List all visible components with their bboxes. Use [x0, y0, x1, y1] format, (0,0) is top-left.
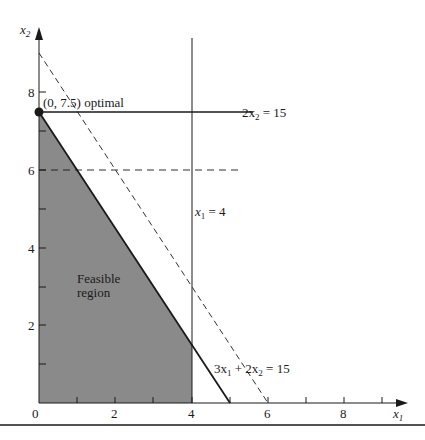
- feasible-region: [39, 112, 192, 403]
- optimal-point-label: (0, 7.5) optimal: [43, 95, 124, 110]
- svg-text:4: 4: [28, 241, 35, 256]
- feasible-region-label: Feasible: [77, 271, 121, 286]
- svg-text:6: 6: [264, 406, 271, 421]
- lp-graph: 0 2 4 6 8 2 4 6 8 x2 x1 (0, 7.5) optimal…: [0, 0, 425, 440]
- svg-text:0: 0: [32, 406, 39, 421]
- svg-text:6: 6: [28, 163, 35, 178]
- label-3x1-2x2-eq-15: 3x1 + 2x2 = 15: [214, 361, 290, 378]
- svg-text:8: 8: [340, 406, 347, 421]
- label-2x2-eq-15: 2x2 = 15: [242, 105, 286, 122]
- feasible-region-label-2: region: [77, 285, 111, 300]
- x-tick-labels: 0 2 4 6 8: [32, 406, 347, 421]
- svg-text:2: 2: [28, 318, 35, 333]
- y-axis-label: x2: [19, 22, 31, 39]
- x-axis-label: x1: [392, 406, 403, 423]
- svg-text:4: 4: [188, 406, 195, 421]
- y-tick-labels: 2 4 6 8: [28, 85, 35, 333]
- label-x1-eq-4: x1 = 4: [194, 204, 226, 221]
- svg-text:2: 2: [111, 406, 118, 421]
- y-axis-arrow-icon: [35, 27, 43, 40]
- svg-text:8: 8: [28, 85, 35, 100]
